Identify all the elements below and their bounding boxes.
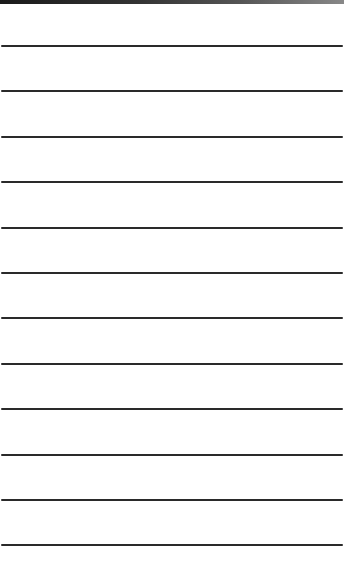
ruled-line [1, 90, 343, 92]
ruled-line [1, 45, 343, 47]
ruled-line [1, 181, 343, 183]
ruled-line [1, 408, 343, 410]
ruled-line [1, 272, 343, 274]
top-edge-strip [0, 0, 344, 4]
ruled-line [1, 136, 343, 138]
ruled-line [1, 363, 343, 365]
ruled-line [1, 499, 343, 501]
ruled-line [1, 454, 343, 456]
ruled-line [1, 544, 343, 546]
ruled-line [1, 227, 343, 229]
ruled-line [1, 317, 343, 319]
